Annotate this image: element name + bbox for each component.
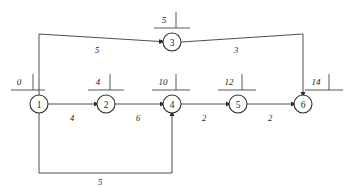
edge-weight-label-3-6: 3 [233,45,238,55]
node-time-value-6: 14 [312,77,322,87]
node-label-1: 1 [37,100,42,110]
node-marker-1: 0 [11,74,45,90]
node-4[interactable]: 4 [163,95,181,113]
node-time-value-3: 5 [162,15,167,25]
edge-weight-label-2-4: 6 [136,113,141,123]
node-label-2: 2 [104,100,109,110]
network-diagram-canvas: 4622535 045101214 123456 [0,0,350,188]
node-5[interactable]: 5 [229,95,247,113]
node-3[interactable]: 3 [163,33,181,51]
edge-1-to-4 [39,113,172,173]
network-diagram: 4622535 045101214 123456 [0,0,350,188]
node-time-value-1: 0 [17,77,22,87]
node-1[interactable]: 1 [30,95,48,113]
node-time-value-4: 10 [159,77,169,87]
node-6[interactable]: 6 [294,95,312,113]
node-time-value-5: 12 [225,77,235,87]
node-2[interactable]: 2 [97,95,115,113]
node-label-4: 4 [170,100,175,110]
node-marker-3: 5 [154,12,190,28]
nodes-layer: 123456 [30,33,312,113]
node-marker-2: 4 [88,74,124,90]
edge-weight-label-1-2: 4 [70,113,75,123]
edge-weight-label-5-6: 2 [268,113,273,123]
edge-weight-label-1-4: 5 [98,177,102,187]
node-marker-4: 10 [152,74,190,90]
node-marker-5: 12 [218,74,256,90]
node-marker-6: 14 [305,74,343,90]
edge-weight-label-4-5: 2 [202,113,207,123]
node-time-value-2: 4 [96,77,101,87]
edge-weight-label-1-3: 5 [95,45,99,55]
node-label-6: 6 [301,100,306,110]
node-markers-layer: 045101214 [11,12,343,90]
node-label-5: 5 [236,100,241,110]
node-label-3: 3 [170,38,175,48]
